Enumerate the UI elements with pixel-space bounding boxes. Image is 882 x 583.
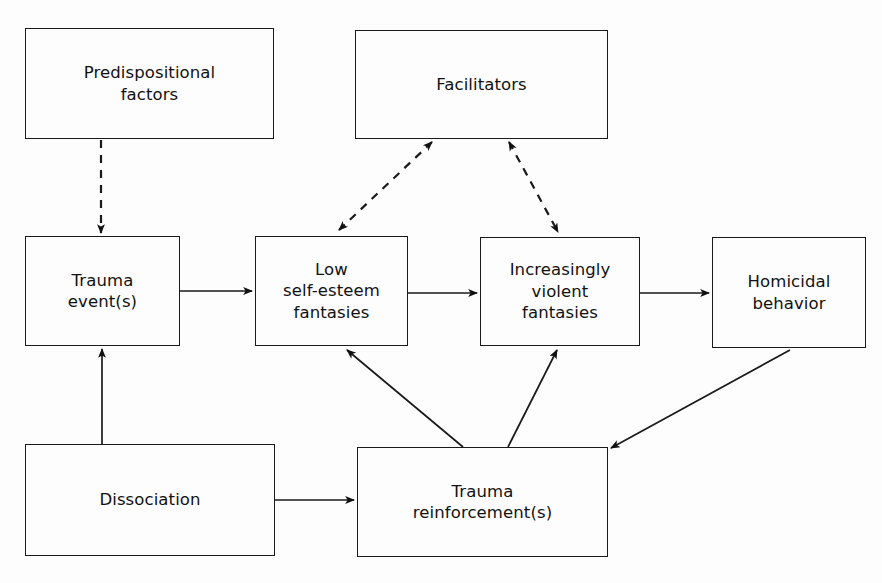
node-label-homicidal-behavior: Homicidal behavior bbox=[742, 271, 837, 314]
node-label-low-self-esteem-fantasies: Low self-esteem fantasies bbox=[277, 259, 386, 323]
node-label-trauma-events: Trauma event(s) bbox=[62, 270, 143, 313]
diagram-canvas: Predispositional factorsFacilitatorsTrau… bbox=[0, 0, 882, 583]
edge-reinforcements-to-violent-fantasies bbox=[508, 350, 557, 447]
node-trauma-reinforcements[interactable]: Trauma reinforcement(s) bbox=[357, 447, 608, 557]
node-increasingly-violent-fantasies[interactable]: Increasingly violent fantasies bbox=[480, 237, 640, 346]
node-label-increasingly-violent-fantasies: Increasingly violent fantasies bbox=[504, 259, 617, 323]
edge-low-self-esteem-facilitators bbox=[339, 142, 432, 230]
node-dissociation[interactable]: Dissociation bbox=[25, 444, 275, 556]
node-low-self-esteem-fantasies[interactable]: Low self-esteem fantasies bbox=[255, 236, 408, 346]
node-label-trauma-reinforcements: Trauma reinforcement(s) bbox=[407, 481, 558, 524]
node-predispositional-factors[interactable]: Predispositional factors bbox=[25, 28, 274, 139]
edge-facilitators-violent-fantasies bbox=[509, 142, 558, 232]
node-label-dissociation: Dissociation bbox=[93, 489, 206, 510]
node-facilitators[interactable]: Facilitators bbox=[355, 30, 608, 139]
node-label-predispositional-factors: Predispositional factors bbox=[78, 62, 222, 105]
edge-reinforcements-to-low-self-esteem bbox=[347, 350, 463, 447]
node-homicidal-behavior[interactable]: Homicidal behavior bbox=[712, 237, 866, 348]
edge-homicidal-to-reinforcements bbox=[611, 350, 790, 448]
node-trauma-events[interactable]: Trauma event(s) bbox=[25, 236, 180, 346]
node-label-facilitators: Facilitators bbox=[430, 74, 533, 95]
